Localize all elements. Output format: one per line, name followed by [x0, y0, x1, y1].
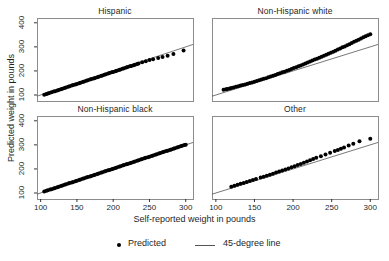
data-point	[161, 55, 165, 59]
legend-label-predicted: Predicted	[128, 238, 166, 248]
x-tick-label: 200	[283, 203, 303, 212]
y-tick-label: 200	[17, 158, 26, 178]
data-point	[156, 56, 160, 60]
x-tick-label: 300	[360, 203, 380, 212]
series-predicted	[229, 137, 372, 189]
data-point	[182, 48, 186, 52]
y-tick-label: 400	[17, 110, 26, 130]
data-point	[147, 58, 151, 62]
panel-non-hispanic-black	[34, 117, 194, 203]
x-tick-label: 300	[176, 203, 196, 212]
x-tick-label: 150	[244, 203, 264, 212]
data-point	[151, 57, 155, 61]
panel-other	[212, 117, 379, 203]
data-point	[368, 32, 372, 36]
data-point	[357, 139, 361, 143]
data-point	[144, 59, 148, 63]
y-tick-label: 100	[17, 84, 26, 104]
chart-figure: Hispanic Non-Hispanic white Non-Hispanic…	[0, 0, 389, 261]
y-tick-label: 300	[17, 134, 26, 154]
data-point	[184, 143, 188, 147]
data-point	[140, 60, 144, 64]
panel-frame	[213, 19, 379, 102]
data-point	[254, 177, 258, 181]
x-tick-label: 250	[139, 203, 159, 212]
data-point	[342, 146, 346, 150]
data-point	[324, 152, 328, 156]
y-axis-title: Predicted weight in pounds	[6, 48, 16, 168]
data-point	[171, 52, 175, 56]
data-point	[137, 61, 141, 65]
series-predicted	[222, 32, 373, 91]
x-tick-label: 100	[206, 203, 226, 212]
legend-label-45-degree-line: 45-degree line	[223, 238, 281, 248]
x-tick-label: 200	[103, 203, 123, 212]
panel-title-hispanic: Hispanic	[37, 6, 193, 16]
data-point	[368, 137, 372, 141]
x-tick-label: 250	[322, 203, 342, 212]
panel-frame	[213, 117, 379, 200]
y-tick-label: 400	[17, 12, 26, 32]
data-point	[319, 154, 323, 158]
y-tick-label: 100	[17, 182, 26, 202]
y-tick-label: 300	[17, 36, 26, 56]
series-predicted	[42, 48, 185, 96]
panel-title-other: Other	[212, 104, 378, 114]
y-tick-label: 200	[17, 60, 26, 80]
data-point	[314, 156, 318, 160]
panel-title-non-hispanic-black: Non-Hispanic black	[37, 104, 193, 114]
x-tick-label: 100	[31, 203, 51, 212]
panel-hispanic	[34, 19, 194, 102]
data-point	[347, 144, 351, 148]
legend-marker-45-degree-line	[195, 245, 215, 246]
panel-non-hispanic-white	[212, 19, 379, 102]
x-tick-label: 150	[67, 203, 87, 212]
x-axis-title: Self-reported weight in pounds	[0, 214, 389, 224]
panel-title-non-hispanic-white: Non-Hispanic white	[212, 6, 378, 16]
data-point	[328, 151, 332, 155]
data-point	[166, 54, 170, 58]
legend-marker-predicted	[117, 243, 121, 247]
data-point	[351, 142, 355, 146]
series-predicted	[42, 143, 187, 194]
